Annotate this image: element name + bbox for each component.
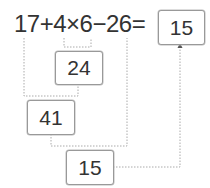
answer-box: 15 (158, 10, 205, 45)
bracket-4x6 (64, 38, 91, 47)
step-box-41: 41 (27, 100, 75, 135)
math-expression: 17+4×6−26= (14, 9, 145, 39)
step-box-15: 15 (66, 150, 114, 185)
step-box-24: 24 (55, 51, 103, 85)
arrow-line-to-answer (113, 48, 180, 167)
